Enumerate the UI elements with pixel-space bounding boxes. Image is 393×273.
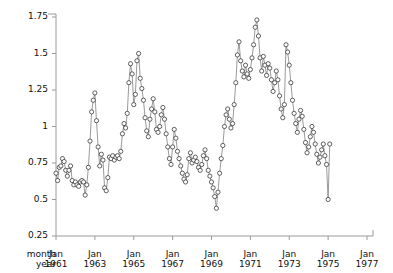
x-tick-year: 1963 xyxy=(75,259,115,269)
x-tick-month: Jan xyxy=(347,249,387,259)
y-tick-label: 1 xyxy=(4,121,48,131)
series-line xyxy=(56,20,330,208)
axis-corner-label: year xyxy=(4,259,56,269)
x-tick-month: Jan xyxy=(153,249,193,259)
x-tick-month: Jan xyxy=(308,249,348,259)
x-tick-year: 1975 xyxy=(308,259,348,269)
x-tick-month: Jan xyxy=(192,249,232,259)
x-tick-month: Jan xyxy=(269,249,309,259)
y-tick-label: 1.75 xyxy=(4,11,48,21)
x-tick-month: Jan xyxy=(75,249,115,259)
x-tick-label: Jan1975 xyxy=(308,249,348,269)
timeseries-plot xyxy=(0,0,393,273)
x-tick-year: 1977 xyxy=(347,259,387,269)
axis-corner-labels: monthyear xyxy=(4,249,56,269)
x-tick-label: Jan1967 xyxy=(153,249,193,269)
y-tick-label: 1.5 xyxy=(4,48,48,58)
axis-ticks xyxy=(52,17,367,240)
x-tick-year: 1973 xyxy=(269,259,309,269)
series-markers xyxy=(54,18,332,211)
y-tick-label: 1.25 xyxy=(4,84,48,94)
x-tick-label: Jan1971 xyxy=(230,249,270,269)
x-tick-label: Jan1969 xyxy=(192,249,232,269)
y-tick-label: 0.5 xyxy=(4,194,48,204)
x-tick-label: Jan1973 xyxy=(269,249,309,269)
axis-corner-label: month xyxy=(4,249,56,259)
chart-container: 0.250.50.7511.251.51.75 Jan1961Jan1963Ja… xyxy=(0,0,393,273)
x-tick-label: Jan1977 xyxy=(347,249,387,269)
y-tick-label: 0.75 xyxy=(4,157,48,167)
x-tick-month: Jan xyxy=(114,249,154,259)
x-tick-year: 1967 xyxy=(153,259,193,269)
x-tick-label: Jan1965 xyxy=(114,249,154,269)
y-tick-label: 0.25 xyxy=(4,230,48,240)
x-tick-year: 1969 xyxy=(192,259,232,269)
x-tick-year: 1971 xyxy=(230,259,270,269)
x-tick-label: Jan1963 xyxy=(75,249,115,269)
x-tick-year: 1965 xyxy=(114,259,154,269)
x-tick-month: Jan xyxy=(230,249,270,259)
